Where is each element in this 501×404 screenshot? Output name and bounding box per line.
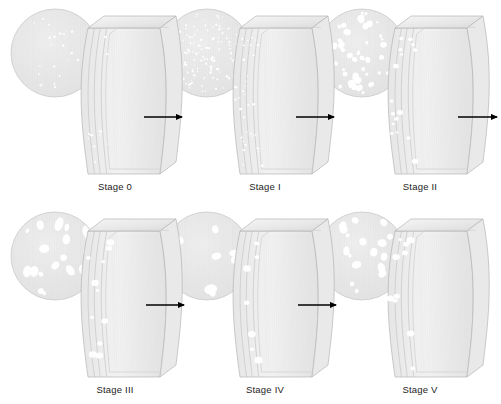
stage-label-stage-2: Stage II bbox=[370, 181, 470, 192]
specimen-bodies-layer bbox=[81, 16, 489, 377]
specimen-stage-3 bbox=[81, 219, 182, 377]
stage-label-stage-4: Stage IV bbox=[215, 384, 315, 395]
specimen-stage-0 bbox=[81, 16, 182, 174]
stage-label-stage-3: Stage III bbox=[65, 384, 165, 395]
stage-label-stage-5: Stage V bbox=[370, 384, 470, 395]
specimen-stage-5 bbox=[387, 219, 490, 377]
stage-progression-diagram bbox=[0, 0, 501, 404]
stage-label-stage-1: Stage I bbox=[215, 181, 315, 192]
inset-circles-layer bbox=[11, 9, 406, 300]
stage-label-stage-0: Stage 0 bbox=[65, 181, 165, 192]
specimen-stage-2 bbox=[388, 16, 489, 174]
specimen-stage-1 bbox=[233, 16, 334, 174]
specimen-stage-4 bbox=[233, 219, 334, 377]
